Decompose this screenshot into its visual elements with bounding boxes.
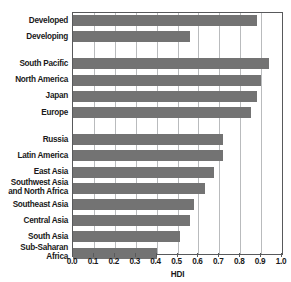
- bar-row: Japan: [0, 91, 291, 102]
- bar-row: South Asia: [0, 231, 291, 242]
- bar-row-label: Developed: [2, 16, 68, 25]
- bar-row: South Pacific: [0, 58, 291, 69]
- bar-row-label: South Pacific: [2, 60, 68, 69]
- bar-row: Central Asia: [0, 215, 291, 226]
- bar-track: [73, 15, 282, 26]
- bar-row-label: Central Asia: [2, 216, 68, 225]
- bar-track: [73, 231, 282, 242]
- x-axis-tick-labels: 0.00.10.20.30.40.50.60.70.80.91.0: [0, 257, 291, 269]
- bar-row: Latin America: [0, 150, 291, 161]
- bar-row: Southeast Asia: [0, 199, 291, 210]
- bar-row: Developing: [0, 31, 291, 42]
- bar-track: [73, 75, 282, 86]
- bar: [73, 91, 257, 102]
- bar-row-label: South Asia: [2, 233, 68, 242]
- bar-row-label: East Asia: [2, 168, 68, 177]
- bar: [73, 107, 251, 118]
- bar-track: [73, 215, 282, 226]
- bar-row: Russia: [0, 134, 291, 145]
- bar: [73, 215, 190, 226]
- bar-row: Southwest Asia and North Africa: [0, 183, 291, 194]
- bar: [73, 58, 269, 69]
- x-axis-tick-label: 1.0: [266, 257, 291, 266]
- bar: [73, 231, 180, 242]
- bar-row-label: Japan: [2, 92, 68, 101]
- bar-track: [73, 58, 282, 69]
- bar-track: [73, 107, 282, 118]
- bar-row: North America: [0, 75, 291, 86]
- bar: [73, 134, 223, 145]
- bar: [73, 183, 205, 194]
- bar-track: [73, 183, 282, 194]
- bar-row-label: Southwest Asia and North Africa: [2, 180, 68, 197]
- bar-track: [73, 134, 282, 145]
- bar-track: [73, 150, 282, 161]
- bar-row-label: Russia: [2, 135, 68, 144]
- bar: [73, 150, 223, 161]
- bar-row-label: Southeast Asia: [2, 200, 68, 209]
- bar-rows: DevelopedDevelopingSouth PacificNorth Am…: [0, 0, 291, 282]
- bar: [73, 75, 261, 86]
- bar: [73, 31, 190, 42]
- bar-track: [73, 199, 282, 210]
- bar: [73, 15, 257, 26]
- x-axis-title: HDI: [72, 270, 283, 282]
- bar-track: [73, 167, 282, 178]
- bar-chart: DevelopedDevelopingSouth PacificNorth Am…: [0, 0, 291, 282]
- bar-row-label: Developing: [2, 32, 68, 41]
- bar-row: East Asia: [0, 167, 291, 178]
- bar-row: Europe: [0, 107, 291, 118]
- bar-row: Developed: [0, 15, 291, 26]
- bar-track: [73, 31, 282, 42]
- bar: [73, 167, 214, 178]
- bar-row-label: Europe: [2, 108, 68, 117]
- bar-row-label: Latin America: [2, 152, 68, 161]
- bar: [73, 199, 194, 210]
- bar-row-label: North America: [2, 76, 68, 85]
- bar-track: [73, 91, 282, 102]
